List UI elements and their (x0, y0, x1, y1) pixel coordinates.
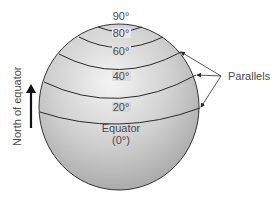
label-90: 90° (113, 10, 130, 22)
direction-label: North of equator (11, 66, 23, 146)
label-20: 20° (113, 101, 130, 113)
label-40: 40° (113, 70, 130, 82)
globe-diagram: 90° 80° 60° 40° 20° Equator (0°) Paralle… (0, 0, 275, 201)
label-60: 60° (113, 45, 130, 57)
equator-value: (0°) (112, 134, 130, 146)
label-80: 80° (113, 27, 130, 39)
equator-label: Equator (102, 122, 141, 134)
parallels-label: Parallels (228, 70, 271, 82)
north-arrow-icon (26, 84, 36, 128)
